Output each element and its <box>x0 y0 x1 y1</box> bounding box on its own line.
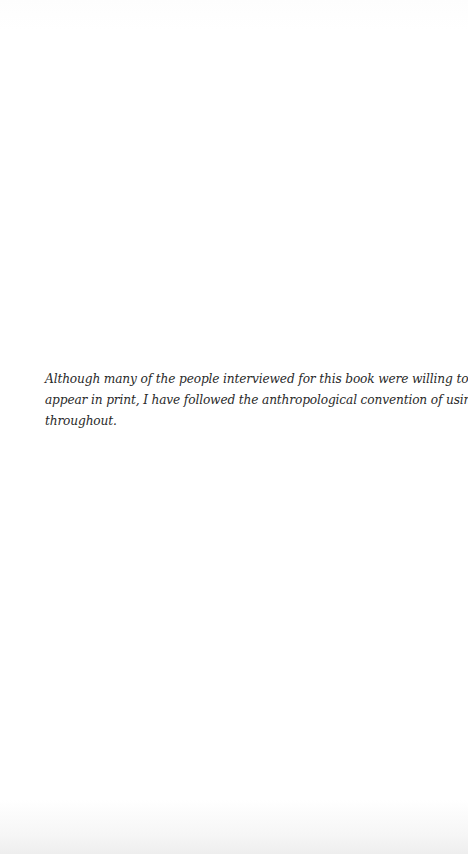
note-line: appear in print, I have followed the ant… <box>45 390 460 411</box>
note-line: Although many of the people interviewed … <box>45 369 460 390</box>
pseudonym-note: Although many of the people interviewed … <box>45 369 460 432</box>
book-page: Although many of the people interviewed … <box>0 0 468 854</box>
note-line: throughout. <box>45 411 460 432</box>
